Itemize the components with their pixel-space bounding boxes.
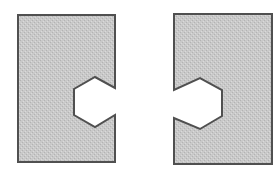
diagram-canvas — [0, 0, 276, 179]
